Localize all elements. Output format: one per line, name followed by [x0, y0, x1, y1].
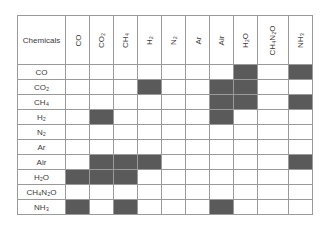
- row-header: H₂O: [18, 170, 66, 185]
- matrix-cell-empty: [186, 125, 210, 140]
- column-label: CO: [73, 34, 82, 46]
- matrix-cell-empty: [258, 185, 289, 200]
- row-header: CO: [18, 65, 66, 80]
- matrix-cell-empty: [234, 125, 258, 140]
- table-row: N₂: [18, 125, 313, 140]
- matrix-cell-empty: [186, 140, 210, 155]
- matrix-cell-empty: [90, 95, 114, 110]
- matrix-cell-filled: [66, 200, 90, 215]
- matrix-cell-empty: [138, 140, 162, 155]
- column-header-h2: H₂: [138, 16, 162, 65]
- matrix-cell-empty: [186, 80, 210, 95]
- matrix-cell-empty: [162, 140, 186, 155]
- matrix-cell-empty: [210, 65, 234, 80]
- matrix-cell-empty: [210, 170, 234, 185]
- matrix-cell-empty: [234, 110, 258, 125]
- matrix-cell-empty: [234, 200, 258, 215]
- matrix-cell-empty: [186, 95, 210, 110]
- matrix-cell-filled: [114, 155, 138, 170]
- column-label: NH₃: [296, 33, 305, 48]
- matrix-cell-filled: [138, 155, 162, 170]
- matrix-cell-empty: [162, 125, 186, 140]
- matrix-cell-empty: [114, 125, 138, 140]
- matrix-cell-empty: [66, 110, 90, 125]
- matrix-cell-empty: [234, 140, 258, 155]
- column-header-ar: Ar: [186, 16, 210, 65]
- matrix-cell-filled: [90, 110, 114, 125]
- matrix-cell-filled: [90, 170, 114, 185]
- matrix-cell-empty: [162, 65, 186, 80]
- matrix-cell-empty: [186, 200, 210, 215]
- matrix-cell-filled: [288, 95, 312, 110]
- matrix-cell-empty: [66, 185, 90, 200]
- matrix-cell-empty: [162, 95, 186, 110]
- row-header: CH₄: [18, 95, 66, 110]
- matrix-cell-empty: [114, 140, 138, 155]
- corner-header: Chemicals: [18, 16, 66, 65]
- matrix-cell-empty: [258, 170, 289, 185]
- matrix-cell-empty: [234, 185, 258, 200]
- matrix-cell-empty: [162, 110, 186, 125]
- matrix-cell-empty: [90, 140, 114, 155]
- matrix-cell-empty: [162, 185, 186, 200]
- matrix-cell-empty: [258, 200, 289, 215]
- table-row: Air: [18, 155, 313, 170]
- matrix-cell-filled: [210, 95, 234, 110]
- table-row: CH₄: [18, 95, 313, 110]
- row-header: NH₃: [18, 200, 66, 215]
- matrix-cell-filled: [234, 80, 258, 95]
- matrix-cell-empty: [90, 200, 114, 215]
- matrix-cell-empty: [186, 185, 210, 200]
- matrix-cell-empty: [234, 170, 258, 185]
- matrix-cell-empty: [162, 155, 186, 170]
- matrix-body: COCO₂CH₄H₂N₂ArAirH₂OCH₄N₂ONH₃: [18, 65, 313, 215]
- matrix-cell-filled: [114, 200, 138, 215]
- matrix-cell-empty: [138, 185, 162, 200]
- matrix-cell-filled: [90, 155, 114, 170]
- matrix-cell-empty: [210, 125, 234, 140]
- column-header-air: Air: [210, 16, 234, 65]
- matrix-cell-filled: [210, 80, 234, 95]
- matrix-cell-empty: [288, 80, 312, 95]
- matrix-cell-empty: [114, 95, 138, 110]
- table-row: NH₃: [18, 200, 313, 215]
- row-header: N₂: [18, 125, 66, 140]
- column-header-co2: CO₂: [90, 16, 114, 65]
- matrix-cell-empty: [162, 80, 186, 95]
- matrix-cell-empty: [288, 185, 312, 200]
- matrix-cell-empty: [258, 65, 289, 80]
- row-header: CH₄N₂O: [18, 185, 66, 200]
- matrix-cell-empty: [210, 155, 234, 170]
- matrix-cell-filled: [210, 110, 234, 125]
- matrix-cell-empty: [138, 65, 162, 80]
- row-header: CO₂: [18, 80, 66, 95]
- matrix-cell-empty: [138, 95, 162, 110]
- column-label: CH₄: [121, 33, 130, 48]
- matrix-cell-empty: [114, 110, 138, 125]
- column-label: Air: [217, 35, 226, 45]
- matrix-cell-empty: [186, 110, 210, 125]
- matrix-cell-empty: [258, 80, 289, 95]
- matrix-cell-empty: [162, 170, 186, 185]
- matrix-cell-empty: [138, 200, 162, 215]
- matrix-cell-filled: [138, 80, 162, 95]
- matrix-cell-empty: [162, 200, 186, 215]
- matrix-cell-empty: [138, 170, 162, 185]
- matrix-cell-empty: [66, 155, 90, 170]
- matrix-cell-empty: [90, 185, 114, 200]
- matrix-cell-filled: [288, 155, 312, 170]
- matrix-cell-empty: [186, 65, 210, 80]
- column-label: CO₂: [97, 32, 106, 47]
- matrix-cell-filled: [288, 65, 312, 80]
- matrix-cell-empty: [210, 140, 234, 155]
- matrix-cell-empty: [66, 80, 90, 95]
- column-header-nh3: NH₃: [288, 16, 312, 65]
- matrix-cell-empty: [234, 155, 258, 170]
- matrix-cell-empty: [288, 200, 312, 215]
- column-header-ch4: CH₄: [114, 16, 138, 65]
- matrix-cell-empty: [186, 155, 210, 170]
- matrix-cell-empty: [114, 65, 138, 80]
- matrix-cell-empty: [138, 110, 162, 125]
- matrix-cell-filled: [234, 65, 258, 80]
- header-row: Chemicals CO CO₂ CH₄ H₂ N₂ Ar Air H₂O CH…: [18, 16, 313, 65]
